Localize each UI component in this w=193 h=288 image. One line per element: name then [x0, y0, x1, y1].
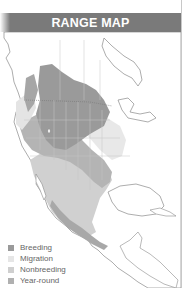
migration-swatch	[8, 256, 14, 262]
salt-lake	[48, 129, 50, 133]
legend-label: Nonbreeding	[20, 265, 66, 274]
legend-label: Migration	[20, 254, 53, 263]
nonbreeding-swatch	[8, 267, 14, 273]
legend-item-breeding: Breeding	[8, 242, 66, 253]
range-map-header: RANGE MAP	[0, 13, 181, 32]
legend-item-nonbreeding: Nonbreeding	[8, 264, 66, 275]
map-legend: Breeding Migration Nonbreeding Year-roun…	[8, 242, 66, 286]
legend-item-migration: Migration	[8, 253, 66, 264]
legend-label: Year-round	[20, 276, 59, 285]
breeding-swatch	[8, 245, 14, 251]
legend-label: Breeding	[20, 243, 52, 252]
year-round-swatch	[8, 278, 14, 284]
range-map-panel: RANGE MAP	[0, 0, 182, 288]
range-map-title: RANGE MAP	[51, 16, 129, 30]
header-fade	[0, 13, 10, 32]
legend-item-year-round: Year-round	[8, 275, 66, 286]
